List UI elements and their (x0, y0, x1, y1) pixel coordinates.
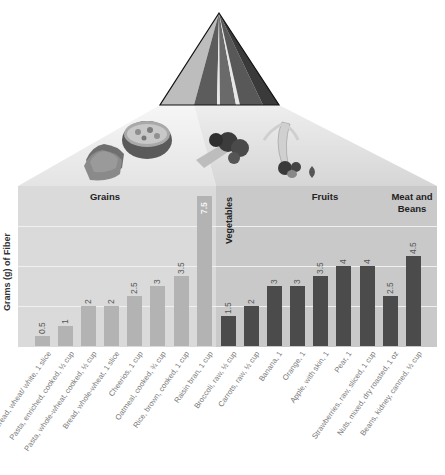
cereal-bowl-icon (122, 121, 172, 159)
bar (174, 276, 189, 346)
food-illustrations (0, 0, 445, 190)
bar (290, 286, 305, 346)
bar-value-label: 7.5 (199, 202, 209, 214)
bar-value-label: 3 (269, 279, 279, 284)
bar (127, 296, 142, 346)
group-label-fruits: Fruits (300, 191, 350, 203)
bar-value-label: 2 (83, 299, 93, 304)
bar (221, 316, 236, 346)
bar (35, 336, 50, 346)
y-axis-label: Grams (g) of Fiber (2, 233, 12, 311)
bar-value-label: 1.5 (223, 302, 233, 314)
bar (383, 296, 398, 346)
bar-value-label: 2 (246, 299, 256, 304)
bar (313, 276, 328, 346)
bar-value-label: 2 (106, 299, 116, 304)
bar-value-label: 2.5 (129, 282, 139, 294)
strawberry-icon (278, 161, 315, 178)
bar-value-label: 1 (60, 319, 70, 324)
bar (360, 266, 375, 346)
bar (81, 306, 96, 346)
bar (336, 266, 351, 346)
fiber-chart-figure: 0.51222.533.57.51.52333.5442.54.5 Grains… (0, 0, 445, 475)
bar-value-label: 3.5 (176, 262, 186, 274)
bar-value-label: 3 (292, 279, 302, 284)
bar (267, 286, 282, 346)
bar (244, 306, 259, 346)
group-label-meat-line1: Meat and (384, 191, 440, 203)
bar (150, 286, 165, 346)
bar-value-label: 2.5 (385, 282, 395, 294)
group-label-vegetables: Vegetables (224, 197, 234, 244)
bar-value-label: 3 (152, 279, 162, 284)
group-label-meat-and-beans: Meat and Beans (384, 191, 440, 215)
bar (58, 326, 73, 346)
bar-value-label: 4.5 (408, 242, 418, 254)
bread-icon (84, 144, 124, 180)
bar-value-label: 0.5 (37, 322, 47, 334)
bar-value-label: 3.5 (315, 262, 325, 274)
bar (197, 196, 212, 346)
bar (104, 306, 119, 346)
bar (406, 256, 421, 346)
banana-icon (264, 122, 298, 164)
bar-value-label: 4 (362, 259, 372, 264)
group-label-grains: Grains (80, 191, 130, 203)
bar-value-label: 4 (338, 259, 348, 264)
group-label-meat-line2: Beans (384, 203, 440, 215)
broccoli-icon (196, 132, 249, 168)
